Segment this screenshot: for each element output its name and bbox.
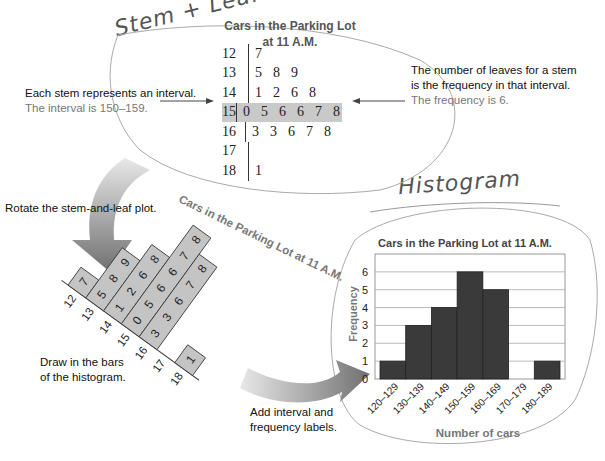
histogram-bar xyxy=(534,361,560,379)
histogram-ytick-label: 5 xyxy=(362,284,368,296)
histogram-bar xyxy=(406,325,432,379)
histogram-ytick-label: 1 xyxy=(362,355,368,367)
histogram-bar xyxy=(457,272,483,379)
histogram-ytick-label: 6 xyxy=(362,266,368,278)
histogram-title: Cars in the Parking Lot at 11 A.M. xyxy=(378,237,552,249)
histogram-bar xyxy=(380,361,406,379)
histogram-ylabel: Frequency xyxy=(347,285,359,342)
histogram-bar xyxy=(431,308,457,379)
histogram-bar xyxy=(483,290,509,379)
histogram-ytick-label: 4 xyxy=(362,302,368,314)
histogram-chart: Cars in the Parking Lot at 11 A.M. Frequ… xyxy=(0,0,605,461)
histogram-ytick-label: 2 xyxy=(362,337,368,349)
histogram-xlabel: Number of cars xyxy=(436,427,520,439)
histogram-ytick-label: 0 xyxy=(362,373,368,385)
histogram-ytick-label: 3 xyxy=(362,319,368,331)
